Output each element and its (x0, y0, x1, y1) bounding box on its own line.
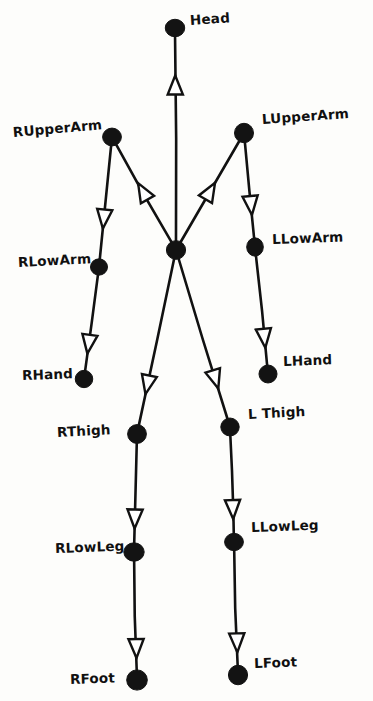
joint-node-rlowleg[interactable] (124, 543, 144, 561)
arrow-head-icon (82, 334, 97, 354)
joint-label-llowleg: LLowLeg (251, 519, 319, 535)
bone-edge (175, 33, 176, 245)
bone-edge (138, 255, 175, 429)
joint-label-rhand: RHand (22, 367, 74, 382)
joint-node-llowleg[interactable] (225, 533, 244, 550)
joint-node-lthigh[interactable] (221, 418, 239, 436)
arrow-head-icon (128, 639, 143, 658)
arrow-head-icon (168, 76, 183, 95)
arrow-head-icon (243, 195, 258, 215)
joint-label-lhand: LHand (283, 353, 333, 368)
bone-edge (85, 272, 99, 374)
joint-label-rlowleg: RLowLeg (55, 540, 125, 556)
joint-node-llowarm[interactable] (247, 238, 264, 256)
bone-edge (245, 138, 255, 242)
joint-node-rthigh[interactable] (128, 425, 147, 444)
bone-edge (178, 255, 229, 422)
arrow-head-icon (97, 209, 112, 229)
bone-edge (99, 142, 111, 262)
arrow-head-icon (205, 368, 220, 388)
joint-node-rlowarm[interactable] (91, 259, 108, 275)
joint-node-lupperarm[interactable] (235, 123, 254, 142)
joint-label-llowarm: LLowArm (272, 231, 344, 247)
joint-node-lhand[interactable] (259, 365, 277, 383)
skeleton-diagram: HeadRUpperArmRLowArmRHandLUpperArmLLowAr… (0, 0, 373, 701)
arrow-head-icon (138, 183, 154, 203)
joint-node-rhand[interactable] (75, 370, 93, 387)
joint-node-rfoot[interactable] (127, 670, 148, 690)
arrow-head-icon (256, 328, 271, 348)
joint-node-lfoot[interactable] (228, 665, 247, 685)
bone-edge (256, 252, 268, 369)
joint-label-rfoot: RFoot (70, 671, 116, 686)
joint-node-rupperarm[interactable] (103, 128, 122, 146)
joint-node-head[interactable] (165, 19, 184, 36)
joint-label-lthigh: L Thigh (248, 405, 306, 421)
joint-node-root[interactable] (166, 241, 185, 260)
arrow-head-icon (229, 633, 244, 652)
joint-label-lfoot: LFoot (254, 655, 298, 670)
arrow-head-icon (225, 500, 240, 519)
skeleton-graph-canvas (0, 0, 373, 701)
arrow-head-icon (127, 509, 142, 528)
arrow-head-icon (199, 183, 215, 203)
arrow-head-icon (142, 374, 157, 394)
joint-label-head: Head (190, 11, 231, 27)
joint-label-rthigh: RThigh (57, 423, 111, 439)
